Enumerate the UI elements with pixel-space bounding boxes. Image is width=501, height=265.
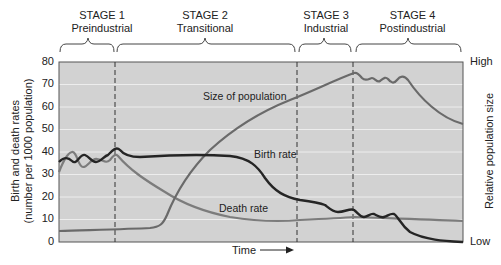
birth-rate-label: Birth rate bbox=[254, 148, 297, 160]
death-rate-label: Death rate bbox=[219, 202, 268, 214]
chart-plot: Size of population Birth rate Death rate bbox=[0, 0, 501, 265]
stage-braces bbox=[60, 38, 461, 52]
population-label: Size of population bbox=[203, 90, 287, 102]
